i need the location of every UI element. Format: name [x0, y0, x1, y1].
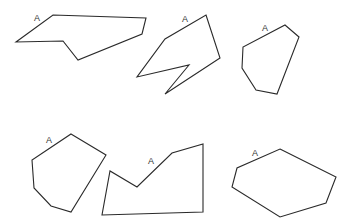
label-a: A — [252, 148, 258, 158]
polygon-3: A — [242, 23, 299, 94]
label-a: A — [34, 13, 40, 23]
polygon-4: A — [32, 134, 106, 212]
polygon-5: A — [102, 144, 203, 215]
polygons-diagram: A A A A A A — [0, 0, 349, 224]
polygon-6: A — [232, 148, 336, 217]
polygon-1: A — [16, 13, 146, 60]
label-a: A — [148, 156, 154, 166]
label-a: A — [46, 135, 52, 145]
polygon-2: A — [137, 14, 220, 94]
label-a: A — [262, 23, 268, 33]
label-a: A — [182, 14, 188, 24]
